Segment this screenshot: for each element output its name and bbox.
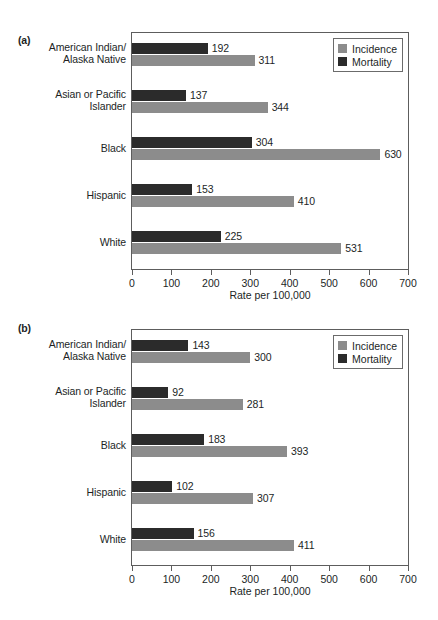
x-axis-tick bbox=[329, 566, 330, 571]
bar-value-label: 156 bbox=[198, 528, 215, 539]
panel-b-axis-title: Rate per 100,000 bbox=[131, 585, 409, 597]
bar-value-label: 344 bbox=[272, 102, 289, 113]
x-axis-tick-label: 100 bbox=[163, 573, 181, 585]
x-axis-tick-label: 200 bbox=[202, 573, 220, 585]
bar-value-label: 304 bbox=[256, 137, 273, 148]
category-label: Asian or Pacific Islander bbox=[6, 386, 126, 409]
x-axis-tick bbox=[369, 270, 370, 275]
bar-mortality bbox=[132, 184, 192, 195]
bar-value-label: 311 bbox=[259, 55, 275, 66]
category-label: Black bbox=[6, 440, 126, 452]
x-axis-tick-label: 0 bbox=[129, 277, 135, 289]
bar-incidence bbox=[132, 540, 294, 551]
category-label: Hispanic bbox=[6, 190, 126, 202]
category-label: American Indian/ Alaska Native bbox=[6, 339, 126, 362]
panel-a: (a) American Indian/ Alaska Native192311… bbox=[0, 0, 438, 310]
x-axis-tick-label: 700 bbox=[399, 573, 417, 585]
category-label: Asian or Pacific Islander bbox=[6, 89, 126, 112]
bar-value-label: 300 bbox=[254, 352, 271, 363]
x-axis-tick bbox=[132, 566, 133, 571]
bar-value-label: 630 bbox=[384, 149, 401, 160]
bar-value-label: 92 bbox=[172, 387, 183, 398]
bar-mortality bbox=[132, 137, 252, 148]
x-axis-tick-label: 700 bbox=[399, 277, 417, 289]
category-label: American Indian/ Alaska Native bbox=[6, 42, 126, 65]
bar-mortality bbox=[132, 340, 188, 351]
bar-mortality bbox=[132, 231, 221, 242]
category-label: Hispanic bbox=[6, 487, 126, 499]
bar-incidence bbox=[132, 55, 255, 66]
bar-incidence bbox=[132, 102, 268, 113]
x-axis-tick bbox=[250, 270, 251, 275]
bar-value-label: 411 bbox=[298, 540, 314, 551]
bar-mortality bbox=[132, 434, 204, 445]
panel-a-legend: Incidence Mortality bbox=[333, 38, 403, 72]
bar-mortality bbox=[132, 387, 168, 398]
panel-b-plot-area: American Indian/ Alaska Native143300Asia… bbox=[131, 329, 409, 566]
x-axis-tick bbox=[250, 566, 251, 571]
bar-mortality bbox=[132, 90, 186, 101]
x-axis-tick bbox=[290, 270, 291, 275]
bar-incidence bbox=[132, 446, 287, 457]
bar-mortality bbox=[132, 43, 208, 54]
category-label: White bbox=[6, 237, 126, 249]
x-axis-tick bbox=[408, 270, 409, 275]
bar-mortality bbox=[132, 481, 172, 492]
legend-swatch-mortality-icon bbox=[338, 354, 347, 363]
x-axis-tick bbox=[171, 270, 172, 275]
x-axis-tick bbox=[132, 270, 133, 275]
x-axis-tick-label: 100 bbox=[163, 277, 181, 289]
bar-incidence bbox=[132, 493, 253, 504]
bar-incidence bbox=[132, 149, 380, 160]
legend-item-incidence: Incidence bbox=[338, 339, 397, 352]
bar-value-label: 281 bbox=[247, 399, 264, 410]
panel-b-label: (b) bbox=[18, 322, 31, 334]
legend-swatch-incidence-icon bbox=[338, 44, 347, 53]
x-axis-tick bbox=[171, 566, 172, 571]
legend-item-mortality: Mortality bbox=[338, 352, 397, 365]
x-axis-tick-label: 200 bbox=[202, 277, 220, 289]
bar-value-label: 137 bbox=[190, 90, 207, 101]
legend-label-incidence: Incidence bbox=[352, 43, 397, 55]
x-axis-tick bbox=[369, 566, 370, 571]
x-axis-tick-label: 300 bbox=[242, 573, 260, 585]
legend-item-mortality: Mortality bbox=[338, 55, 397, 68]
x-axis-tick-label: 400 bbox=[281, 573, 299, 585]
bar-value-label: 102 bbox=[176, 481, 193, 492]
category-label: White bbox=[6, 534, 126, 546]
bar-value-label: 393 bbox=[291, 446, 308, 457]
bar-value-label: 153 bbox=[196, 184, 213, 195]
bar-value-label: 410 bbox=[298, 196, 315, 207]
x-axis-tick bbox=[290, 566, 291, 571]
legend-label-mortality: Mortality bbox=[352, 56, 392, 68]
x-axis-tick bbox=[408, 566, 409, 571]
bar-incidence bbox=[132, 352, 250, 363]
bar-incidence bbox=[132, 196, 294, 207]
x-axis-tick-label: 300 bbox=[242, 277, 260, 289]
panel-a-plot-area: American Indian/ Alaska Native192311Asia… bbox=[131, 32, 409, 270]
bar-incidence bbox=[132, 399, 243, 410]
x-axis-tick-label: 600 bbox=[360, 573, 378, 585]
x-axis-tick-label: 500 bbox=[320, 277, 338, 289]
legend-swatch-mortality-icon bbox=[338, 57, 347, 66]
bar-value-label: 143 bbox=[192, 340, 209, 351]
x-axis-tick bbox=[329, 270, 330, 275]
bar-value-label: 307 bbox=[257, 493, 274, 504]
x-axis-tick-label: 600 bbox=[360, 277, 378, 289]
x-axis-tick-label: 400 bbox=[281, 277, 299, 289]
x-axis-tick bbox=[211, 270, 212, 275]
legend-item-incidence: Incidence bbox=[338, 42, 397, 55]
bar-mortality bbox=[132, 528, 194, 539]
legend-label-incidence: Incidence bbox=[352, 340, 397, 352]
bar-value-label: 192 bbox=[212, 43, 229, 54]
category-label: Black bbox=[6, 143, 126, 155]
bar-value-label: 531 bbox=[345, 243, 362, 254]
legend-label-mortality: Mortality bbox=[352, 353, 392, 365]
panel-b: (b) American Indian/ Alaska Native143300… bbox=[0, 297, 438, 620]
x-axis-tick-label: 0 bbox=[129, 573, 135, 585]
bar-value-label: 183 bbox=[208, 434, 225, 445]
x-axis-tick-label: 500 bbox=[320, 573, 338, 585]
legend-swatch-incidence-icon bbox=[338, 341, 347, 350]
panel-b-legend: Incidence Mortality bbox=[333, 335, 403, 369]
bar-incidence bbox=[132, 243, 341, 254]
